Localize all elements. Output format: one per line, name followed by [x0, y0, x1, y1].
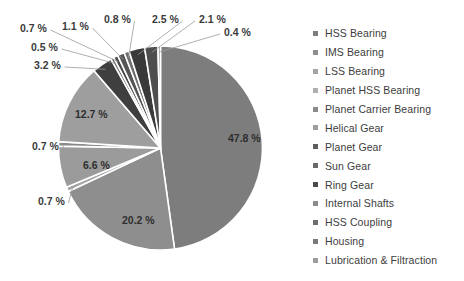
legend-swatch-icon [313, 107, 318, 112]
pie-value-label: 1.1 % [62, 20, 90, 32]
legend-item-label: LSS Bearing [325, 65, 385, 77]
legend-item[interactable]: Ring Gear [312, 175, 464, 194]
pie-value-label: 3.2 % [34, 59, 62, 71]
legend-swatch-icon [313, 220, 318, 225]
legend-swatch-icon [313, 258, 318, 263]
legend-item[interactable]: Planet Gear [312, 137, 464, 156]
legend-swatch-icon [313, 163, 318, 168]
legend-item-label: Sun Gear [325, 160, 371, 172]
legend-item[interactable]: Housing [312, 232, 464, 251]
legend-swatch-icon [313, 69, 318, 74]
pie-value-label: 2.1 % [199, 13, 227, 25]
legend-item[interactable]: Sun Gear [312, 156, 464, 175]
pie-value-label: 0.7 % [20, 22, 48, 34]
pie-value-label: 0.7 % [38, 195, 66, 207]
pie-value-label: 6.6 % [83, 159, 111, 171]
legend-item[interactable]: Planet Carrier Bearing [312, 100, 464, 119]
pie-value-label: 12.7 % [75, 108, 108, 120]
legend-item-label: HSS Bearing [325, 27, 387, 39]
pie-slices-group [59, 46, 263, 250]
legend-item-label: Helical Gear [325, 122, 384, 134]
pie-value-label: 0.8 % [104, 13, 132, 25]
pie-slice[interactable] [161, 46, 263, 249]
leader-line [93, 28, 124, 60]
pie-value-label: 0.5 % [31, 41, 59, 53]
legend-swatch-icon [313, 88, 318, 93]
legend-item[interactable]: HSS Bearing [312, 24, 464, 43]
legend-swatch-icon [313, 239, 318, 244]
legend-item-label: Housing [325, 235, 364, 247]
legend-item[interactable]: Planet HSS Bearing [312, 81, 464, 100]
leader-line [159, 34, 220, 52]
legend-item-label: HSS Coupling [325, 216, 392, 228]
pie-value-label: 0.7 % [32, 140, 60, 152]
legend-item-label: Ring Gear [325, 179, 374, 191]
legend-item[interactable]: Helical Gear [312, 118, 464, 137]
pie-value-label: 0.4 % [224, 26, 252, 38]
legend-item-label: Lubrication & Filtraction [325, 254, 437, 266]
leader-line [51, 30, 119, 62]
legend-swatch-icon [313, 31, 318, 36]
legend-swatch-icon [313, 182, 318, 187]
pie-value-label: 2.5 % [152, 13, 180, 25]
legend-item-label: Internal Shafts [325, 197, 394, 209]
legend-item[interactable]: HSS Coupling [312, 213, 464, 232]
legend-item[interactable]: Lubrication & Filtraction [312, 251, 464, 270]
legend-item-label: Planet Carrier Bearing [325, 103, 431, 115]
pie-chart-figure: 47.8 %20.2 %0.7 %6.6 %0.7 %12.7 %3.2 %0.… [0, 0, 464, 281]
legend-swatch-icon [313, 144, 318, 149]
legend-item[interactable]: LSS Bearing [312, 62, 464, 81]
pie-value-label: 20.2 % [122, 214, 155, 226]
legend-item-label: Planet HSS Bearing [325, 84, 420, 96]
legend-item-label: Planet Gear [325, 141, 382, 153]
chart-legend: HSS BearingIMS BearingLSS BearingPlanet … [312, 24, 464, 270]
legend-item[interactable]: IMS Bearing [312, 43, 464, 62]
legend-swatch-icon [313, 50, 318, 55]
legend-swatch-icon [313, 125, 318, 130]
legend-swatch-icon [313, 201, 318, 206]
legend-item[interactable]: Internal Shafts [312, 194, 464, 213]
legend-item-label: IMS Bearing [325, 46, 384, 58]
pie-value-label: 47.8 % [228, 132, 261, 144]
